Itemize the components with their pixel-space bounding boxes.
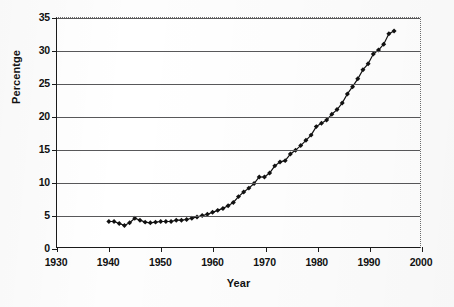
- y-axis-tick: [52, 183, 57, 184]
- y-axis-tick: [52, 150, 57, 151]
- gridline-horizontal: [57, 51, 420, 52]
- data-point-marker: [184, 217, 189, 222]
- gridline-horizontal: [57, 84, 420, 85]
- x-axis-tick-label: 1990: [358, 256, 381, 268]
- x-axis-tick-label: 1980: [305, 256, 328, 268]
- y-axis-tick-label: 35: [39, 11, 50, 23]
- chart-figure: Percentge 05101520253035 193019401950196…: [0, 0, 454, 307]
- data-point-marker: [106, 219, 111, 224]
- gridline-horizontal: [57, 150, 420, 151]
- x-axis-tick: [370, 247, 371, 252]
- gridline-horizontal: [57, 117, 420, 118]
- y-axis-tick-label: 5: [44, 209, 50, 221]
- gridline-horizontal: [57, 183, 420, 184]
- x-axis-tick: [266, 247, 267, 252]
- data-point-marker: [169, 219, 174, 224]
- y-axis-tick-label: 20: [39, 110, 50, 122]
- y-axis-tick: [52, 117, 57, 118]
- x-axis-tick: [318, 247, 319, 252]
- y-axis-tick-label: 30: [39, 44, 50, 56]
- x-axis-tick: [422, 247, 423, 252]
- data-point-marker: [112, 219, 117, 224]
- data-point-marker: [220, 206, 225, 211]
- data-point-marker: [163, 219, 168, 224]
- data-point-marker: [179, 218, 184, 223]
- y-axis-tick-label: 15: [39, 143, 50, 155]
- gridline-horizontal: [57, 216, 420, 217]
- data-point-marker: [392, 29, 397, 34]
- data-point-marker: [210, 210, 215, 215]
- data-point-marker: [386, 31, 391, 36]
- data-point-marker: [117, 221, 122, 226]
- x-axis-tick: [213, 247, 214, 252]
- data-point-marker: [137, 218, 142, 223]
- y-axis-title: Percentge: [10, 50, 22, 104]
- data-point-marker: [158, 219, 163, 224]
- x-axis-tick-label: 1930: [45, 256, 68, 268]
- y-axis-tick: [52, 18, 57, 19]
- plot-area: [56, 17, 421, 248]
- y-axis-tick-label: 0: [44, 242, 50, 254]
- x-axis-tick-label: 1970: [253, 256, 276, 268]
- y-axis-tick-label: 25: [39, 77, 50, 89]
- data-point-marker: [153, 220, 158, 225]
- y-axis-tick: [52, 51, 57, 52]
- data-point-marker: [122, 223, 127, 228]
- x-axis-tick-labels: 19301940195019601970198019902000: [56, 256, 421, 272]
- x-axis-title: Year: [56, 277, 421, 289]
- data-point-marker: [148, 220, 153, 225]
- x-axis-tick: [57, 247, 58, 252]
- x-axis-tick-label: 1950: [149, 256, 172, 268]
- x-axis-tick-label: 1940: [97, 256, 120, 268]
- y-axis-tick-labels: 05101520253035: [26, 17, 50, 248]
- data-point-marker: [215, 208, 220, 213]
- series-line: [109, 31, 394, 225]
- y-axis-tick-label: 10: [39, 176, 50, 188]
- data-point-marker: [174, 218, 179, 223]
- x-axis-tick: [109, 247, 110, 252]
- data-point-marker: [143, 220, 148, 225]
- gridline-horizontal: [57, 18, 420, 19]
- x-axis-tick: [161, 247, 162, 252]
- data-series-line: [57, 18, 420, 247]
- y-axis-tick: [52, 84, 57, 85]
- x-axis-tick-label: 2000: [410, 256, 433, 268]
- y-axis-tick: [52, 216, 57, 217]
- x-axis-tick-label: 1960: [201, 256, 224, 268]
